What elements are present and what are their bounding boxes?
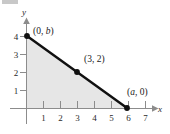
y-axis-label: y	[21, 7, 26, 17]
label-x-intercept: (a, 0)	[127, 87, 148, 98]
x-tick-label-2: 2	[58, 113, 63, 123]
point-y-intercept	[24, 33, 30, 39]
y-axis-arrow-icon	[23, 18, 30, 25]
x-tick-label-7: 7	[143, 113, 148, 123]
y-tick-label-1: 1	[14, 86, 19, 96]
x-tick-label-4: 4	[92, 113, 97, 123]
label-x-intercept-close: , 0)	[135, 87, 148, 98]
figure-root: 1 2 3 4 5 6 7 1 2 3 4 x y (0, b) (3, 2) …	[0, 0, 170, 134]
label-midpoint: (3, 2)	[84, 54, 105, 65]
y-tick-label-2: 2	[14, 68, 19, 78]
y-tick-label-3: 3	[14, 50, 19, 60]
coordinate-plot: 1 2 3 4 5 6 7 1 2 3 4 x y (0, b) (3, 2) …	[0, 0, 170, 134]
x-tick-label-1: 1	[41, 113, 46, 123]
label-y-intercept-close: )	[50, 26, 53, 37]
point-midpoint	[74, 69, 80, 75]
x-axis-label: x	[157, 104, 162, 114]
label-y-intercept: (0, b)	[33, 26, 54, 37]
x-tick-label-5: 5	[109, 113, 114, 123]
y-tick-label-4: 4	[14, 32, 19, 42]
label-y-intercept-open: (0,	[33, 26, 46, 37]
point-x-intercept	[124, 105, 130, 111]
x-tick-label-3: 3	[75, 113, 80, 123]
x-tick-label-6: 6	[126, 113, 131, 123]
